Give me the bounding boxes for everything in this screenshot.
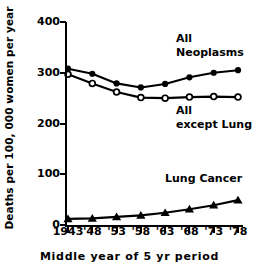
x-axis-tick-label: '63 (156, 226, 175, 237)
x-axis-tick-label: '78 (229, 226, 248, 237)
data-point-filled-circle (89, 71, 95, 77)
data-point-open-circle (235, 94, 241, 100)
x-axis-tick-labels: 1943'48'53'58'63'68'73'78 (0, 226, 259, 244)
data-point-filled-circle (162, 81, 168, 87)
x-axis-tick-label: '68 (180, 226, 199, 237)
x-axis-tick-label: '53 (107, 226, 126, 237)
x-axis-tick-label: '73 (204, 226, 223, 237)
series-label-all-neoplasms-line2: Neoplasms (176, 46, 244, 59)
data-point-filled-triangle (233, 196, 242, 204)
series-lung-cancer (63, 196, 242, 222)
data-point-open-circle (187, 94, 193, 100)
series-label-all-neoplasms: AllNeoplasms (176, 32, 244, 60)
data-point-filled-circle (186, 74, 192, 80)
data-point-open-circle (211, 94, 217, 100)
y-axis-tick (60, 72, 66, 74)
series-label-lung-cancer: Lung Cancer (165, 172, 242, 186)
chart-figure: Deaths per 100, 000 women per year 01002… (0, 0, 259, 276)
y-axis-tick (60, 173, 66, 175)
y-axis-tick (60, 21, 66, 23)
series-label-all-except-lung: Allexcept Lung (176, 104, 252, 132)
data-point-filled-circle (138, 84, 144, 90)
y-axis-tick-label: 200 (20, 118, 60, 129)
x-axis-tick-label: '58 (132, 226, 151, 237)
x-axis-tick-label: 1943 (53, 226, 84, 237)
data-point-open-circle (89, 81, 95, 87)
data-point-filled-circle (211, 70, 217, 76)
y-axis-title-text: Deaths per 100, 000 women per year (3, 6, 15, 229)
series-label-all-neoplasms-line1: All (176, 32, 192, 45)
y-axis-tick (60, 123, 66, 125)
y-axis-title: Deaths per 100, 000 women per year (0, 0, 18, 236)
series-label-all-except-lung-line2: except Lung (176, 118, 252, 131)
x-axis-title: Middle year of 5 yr period (0, 250, 259, 263)
data-point-open-circle (138, 95, 144, 101)
x-axis-tick-label: '48 (83, 226, 102, 237)
data-point-open-circle (162, 95, 168, 101)
y-axis-tick-label: 100 (20, 168, 60, 179)
data-point-filled-circle (113, 80, 119, 86)
data-point-filled-circle (235, 67, 241, 73)
data-point-open-circle (114, 89, 120, 95)
y-axis-tick-label: 400 (20, 16, 60, 27)
y-axis-tick-label: 300 (20, 67, 60, 78)
series-label-all-except-lung-line1: All (176, 104, 192, 117)
